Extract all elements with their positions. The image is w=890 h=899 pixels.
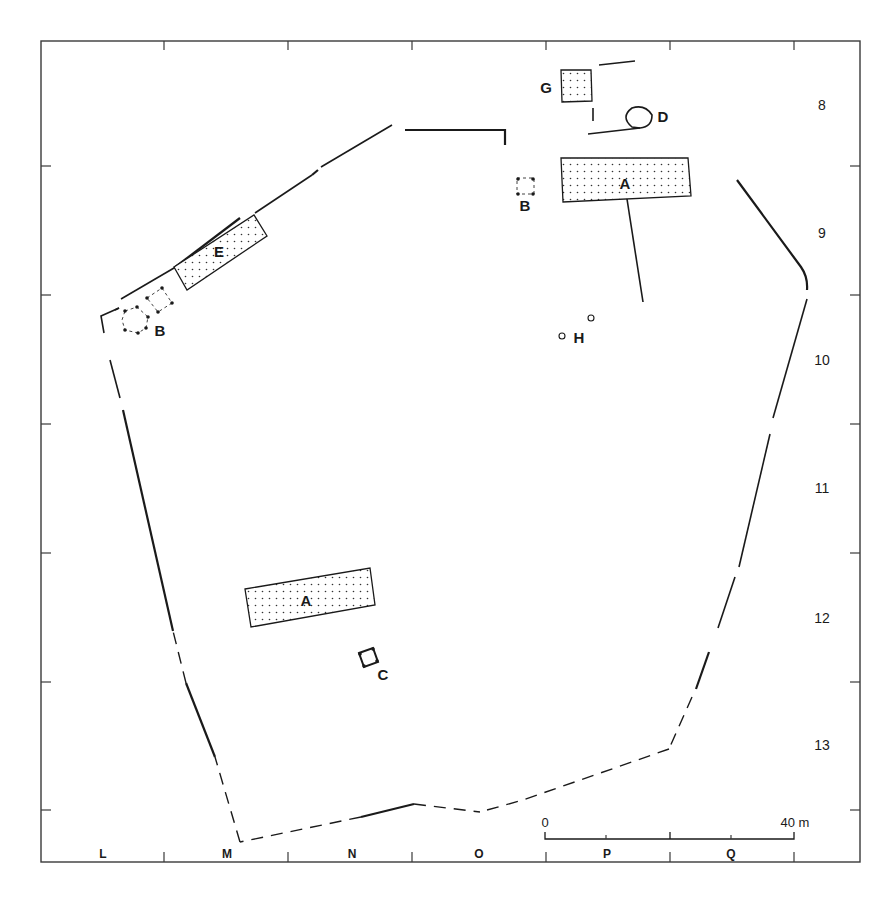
top-grid-ticks (164, 41, 794, 50)
pit-1 (588, 315, 594, 321)
scale-end-label: 40 m (781, 815, 810, 830)
label-a-south: A (301, 592, 312, 609)
left-grid-ticks (41, 166, 51, 810)
site-plan: L M N O P Q 8 9 10 11 12 13 (0, 0, 890, 899)
row-label-11: 11 (815, 480, 830, 496)
pit-2 (559, 333, 565, 339)
row-label-8: 8 (818, 97, 826, 113)
scale-start-label: 0 (541, 815, 548, 830)
column-label-l: L (99, 847, 106, 861)
building-g (561, 70, 592, 102)
column-label-m: M (222, 847, 232, 861)
enclosure-wall (101, 61, 807, 842)
column-label-n: N (348, 847, 357, 861)
map-frame (41, 41, 860, 862)
label-b-west: B (155, 322, 166, 339)
row-label-10: 10 (814, 352, 830, 368)
right-grid-ticks (850, 166, 860, 810)
label-d: D (658, 108, 669, 125)
column-label-p: P (603, 847, 611, 861)
row-labels: 8 9 10 11 12 13 (814, 97, 830, 753)
row-label-13: 13 (814, 737, 830, 753)
column-labels: L M N O P Q (99, 847, 735, 861)
row-label-9: 9 (818, 225, 826, 241)
label-a-north: A (620, 175, 631, 192)
scale-bar: 0 40 m (541, 815, 809, 839)
label-b-north: B (520, 197, 531, 214)
label-g: G (540, 79, 552, 96)
post-structure-c (358, 647, 379, 668)
column-label-o: O (474, 847, 483, 861)
row-label-12: 12 (814, 610, 830, 626)
label-h: H (574, 329, 585, 346)
round-feature-d (626, 107, 652, 128)
post-structure-b-north (516, 177, 535, 196)
label-c: C (378, 666, 389, 683)
column-label-q: Q (726, 847, 735, 861)
label-e: E (214, 243, 224, 260)
